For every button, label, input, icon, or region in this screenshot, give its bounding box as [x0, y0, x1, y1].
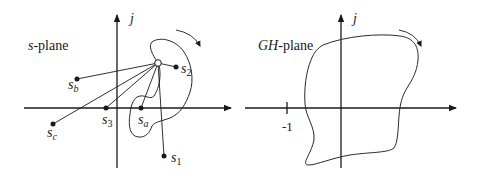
- minus-one-tick-label: -1: [282, 119, 293, 134]
- point-s3-label: s3: [102, 112, 112, 129]
- point-s3: s3: [102, 106, 112, 130]
- s-plane-panel: j s-plane s2 sb sc: [24, 11, 231, 168]
- point-s1-dot: [162, 154, 167, 159]
- plane-label: GH-plane: [258, 38, 313, 53]
- point-sc-sub: c: [52, 131, 57, 142]
- point-sa: sa: [138, 106, 148, 130]
- imaginary-axis-label: j: [351, 11, 357, 26]
- test-point-marker: [155, 60, 162, 67]
- clockwise-direction-arrow: [176, 30, 200, 46]
- plane-label-suffix: -plane: [33, 38, 68, 53]
- vector-to-sa: [141, 63, 158, 108]
- imaginary-axis-label: j: [128, 11, 134, 26]
- point-s1-label: s1: [171, 150, 181, 167]
- point-s2-sub: 2: [186, 67, 191, 78]
- point-sa-sub: a: [143, 118, 148, 129]
- point-sb-sub: b: [73, 83, 78, 94]
- plane-label-var: GH: [258, 38, 279, 53]
- gh-plane-contour: [305, 35, 418, 165]
- point-sa-label: sa: [138, 112, 148, 129]
- point-s3-dot: [104, 106, 109, 111]
- vector-to-s1: [158, 63, 164, 156]
- gh-plane-panel: j GH-plane -1: [245, 11, 456, 168]
- contour-mapping-diagram: j s-plane s2 sb sc: [0, 0, 477, 179]
- point-s1: s1: [162, 150, 182, 167]
- point-s1-sub: 1: [176, 156, 181, 167]
- point-s2: s2: [174, 61, 192, 78]
- point-sb-dot: [75, 77, 80, 82]
- point-sc: sc: [47, 122, 57, 143]
- vector-to-s3: [106, 63, 158, 108]
- point-s2-dot: [174, 65, 179, 70]
- clockwise-direction-arrow: [399, 30, 421, 46]
- point-sc-label: sc: [47, 125, 57, 142]
- plane-label-suffix: -plane: [278, 38, 313, 53]
- plane-label: s-plane: [28, 38, 68, 53]
- point-sb: sb: [68, 77, 80, 95]
- point-s3-sub: 3: [107, 118, 112, 129]
- point-sa-dot: [139, 106, 144, 111]
